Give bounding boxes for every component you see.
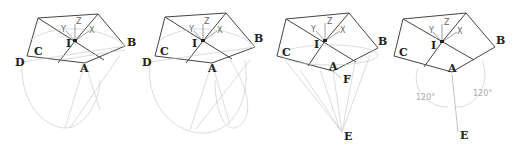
diagram-canvas: Z Y X I C A B D Z Y X I C A B D [0,0,514,149]
label-A: A [328,60,338,73]
panel-2: Z Y X I C A B D [142,13,263,133]
panel-3: Z Y X I C A B F E [277,13,387,143]
panel-4: 120° 120° Z Y X I C A B E [394,13,505,142]
axis-y-label: Y [428,26,434,35]
axis-x-label: X [457,27,463,36]
axis-z-label: Z [327,17,333,26]
axis-y-label: Y [310,25,316,34]
label-C: C [160,45,169,58]
axis-z-label: Z [204,17,210,26]
axis-z-label: Z [444,18,450,27]
label-C: C [399,46,408,59]
axis-z-label: Z [76,17,82,26]
axis-x-label: X [340,26,346,35]
label-I: I [66,37,71,50]
angle-label-right: 120° [473,89,492,98]
label-D: D [15,56,25,69]
label-D: D [142,56,152,69]
axis-y-label: Y [188,25,194,34]
label-A: A [207,62,217,75]
label-A: A [79,62,89,75]
label-B: B [127,36,136,49]
label-B: B [496,34,505,47]
label-C: C [282,46,291,59]
axis-y-label: Y [60,25,66,34]
label-B: B [378,35,387,48]
angle-label-left: 120° [416,93,435,102]
panel-1: Z Y X I C A B D [15,14,136,128]
label-A: A [447,62,457,75]
label-F: F [343,73,351,86]
label-B: B [254,32,263,45]
label-C: C [34,45,43,58]
axis-x-label: X [89,26,95,35]
label-E: E [344,130,352,143]
label-I: I [192,37,197,50]
label-I: I [431,39,436,52]
label-I: I [314,38,319,51]
label-E: E [460,129,468,142]
axis-x-label: X [217,26,223,35]
